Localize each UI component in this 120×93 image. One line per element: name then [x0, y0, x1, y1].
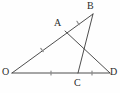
geometry-figure: OABCD — [0, 0, 120, 93]
vertex-label-D: D — [110, 67, 117, 77]
vertex-label-A: A — [54, 18, 61, 28]
vertex-label-O: O — [2, 67, 9, 77]
tick-AB-icon — [77, 21, 79, 24]
segment-OB — [12, 14, 93, 73]
figure-canvas — [0, 0, 120, 93]
vertex-label-B: B — [87, 1, 94, 11]
vertex-label-C: C — [74, 78, 81, 88]
